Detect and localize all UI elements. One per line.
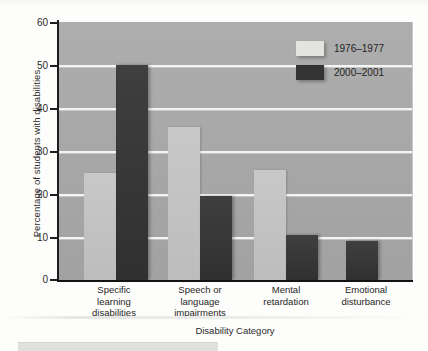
legend-label-1976-1977: 1976–1977 [334, 43, 384, 54]
x-axis-line [57, 280, 413, 282]
bar-1976-1977-specific-learning-disabilities [84, 173, 116, 281]
bar-1976-1977-speech-or-language-impairments [168, 127, 200, 280]
bar-2000-2001-specific-learning-disabilities [116, 65, 148, 280]
x-label-emotional-disturbance: Emotional disturbance [314, 284, 418, 307]
legend-entry-1976-1977: 1976–1977 [296, 36, 384, 60]
y-axis-line [57, 20, 59, 282]
gridline-30 [58, 151, 412, 153]
y-tick-label-20: 20 [18, 189, 48, 200]
x-label-line-3: impairments [148, 307, 252, 319]
y-axis-tick-labels: 60 50 40 30 20 10 0 [12, 0, 48, 350]
plot-area: 1976–1977 2000–2001 [58, 22, 413, 280]
x-axis-title: Disability Category [58, 325, 412, 336]
legend-swatch-2000-2001 [296, 65, 324, 80]
chart-legend: 1976–1977 2000–2001 [296, 36, 384, 84]
gridline-40 [58, 108, 412, 110]
y-tick-label-0: 0 [18, 274, 48, 285]
bar-2000-2001-mental-retardation [286, 235, 318, 280]
legend-swatch-1976-1977 [296, 41, 324, 56]
scan-artifact-bottom-box [18, 342, 218, 351]
x-label-line-2: disturbance [314, 296, 418, 308]
y-tick-label-50: 50 [18, 60, 48, 71]
scan-artifact-top-edge [0, 0, 428, 6]
legend-entry-2000-2001: 2000–2001 [296, 60, 384, 84]
bar-2000-2001-speech-or-language-impairments [200, 196, 232, 280]
y-tick-label-40: 40 [18, 103, 48, 114]
bar-2000-2001-emotional-disturbance [346, 241, 378, 280]
bar-1976-1977-mental-retardation [254, 170, 286, 280]
y-tick-label-30: 30 [18, 146, 48, 157]
x-label-line-1: Emotional [314, 284, 418, 296]
y-tick-label-10: 10 [18, 232, 48, 243]
legend-label-2000-2001: 2000–2001 [334, 67, 384, 78]
y-tick-label-60: 60 [18, 17, 48, 28]
